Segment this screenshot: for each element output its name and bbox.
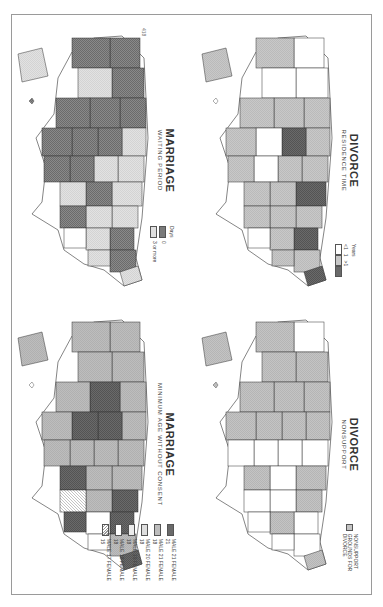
legend-heading: Years bbox=[351, 244, 357, 277]
swatch-light bbox=[151, 226, 158, 238]
legend-item: MALE 20 FEMALE 18 bbox=[139, 524, 150, 587]
swatch-dark bbox=[167, 524, 174, 536]
swatch-medium bbox=[346, 524, 353, 531]
legend-swatches bbox=[335, 244, 342, 277]
legend-label: 0 bbox=[160, 241, 166, 244]
legend-label: MALE 21 FEMALE 18 bbox=[152, 539, 163, 587]
alaska-shape bbox=[202, 332, 232, 366]
map-panel-divorce-nonsupport: DIVORCE NONSUPPORT NONSUPPORT GROUNDS FO… bbox=[196, 302, 366, 587]
legend-label: MALE 18 FEMALE 18 bbox=[113, 539, 124, 587]
legend-heading: Days bbox=[169, 226, 175, 262]
swatch-white bbox=[335, 244, 342, 255]
legend-residence-time: Years <1 1 >1 bbox=[335, 244, 356, 277]
legend-item: MALE 17 FEMALE 15 bbox=[100, 524, 111, 587]
legend-item: MALE 18 FEMALE 18 bbox=[113, 524, 124, 587]
legend-minimum-age: MALE 21 FEMALE 21 MALE 21 FEMALE 18 MALE… bbox=[98, 524, 176, 587]
hawaii-shape bbox=[29, 382, 34, 388]
legend-label: >1 bbox=[343, 260, 349, 266]
legend-label: NONSUPPORT GROUNDS FOR DIVORCE bbox=[342, 534, 359, 580]
alaska-shape bbox=[18, 332, 48, 366]
alaska-shape bbox=[202, 48, 232, 82]
swatch-dark bbox=[160, 226, 167, 238]
legend-item: MALE 19 FEMALE 18 bbox=[126, 524, 137, 587]
map-panel-marriage-minimum-age: MARRIAGE MINIMUM AGE WITHOUT CONSENT MAL… bbox=[12, 302, 182, 587]
legend-item: 0 bbox=[160, 226, 167, 262]
legend-nonsupport: NONSUPPORT GROUNDS FOR DIVORCE bbox=[340, 524, 359, 580]
legend-labels: <1 1 >1 bbox=[343, 244, 349, 277]
legend-label: <1 bbox=[343, 244, 349, 250]
legend-label: MALE 17 FEMALE 15 bbox=[100, 539, 111, 587]
legend-label: MALE 20 FEMALE 18 bbox=[139, 539, 150, 587]
swatch-dark bbox=[335, 266, 342, 277]
alaska-shape bbox=[18, 48, 48, 82]
legend-label: MALE 21 FEMALE 21 bbox=[165, 539, 176, 587]
map-panel-marriage-waiting-period: MARRIAGE WAITING PERIOD Days 0 3 or more bbox=[12, 18, 182, 303]
hawaii-shape bbox=[213, 98, 218, 104]
legend-item: MALE 21 FEMALE 21 bbox=[165, 524, 176, 587]
hawaii-shape bbox=[213, 382, 218, 388]
swatch-hatch bbox=[102, 524, 109, 536]
legend-item: 3 or more bbox=[151, 226, 158, 262]
swatch-medium bbox=[335, 255, 342, 266]
legend-item: MALE 21 FEMALE 18 bbox=[152, 524, 163, 587]
legend-item: NONSUPPORT GROUNDS FOR DIVORCE bbox=[342, 524, 359, 580]
swatch-lighter bbox=[128, 524, 135, 536]
map-panel-divorce-residence-time: DIVORCE RESIDENCE TIME Years <1 1 >1 bbox=[196, 18, 366, 303]
legend-label: 1 bbox=[343, 254, 349, 257]
swatch-light bbox=[141, 524, 148, 536]
swatch-white bbox=[115, 524, 122, 536]
legend-waiting-period: Days 0 3 or more bbox=[149, 226, 175, 262]
legend-label: 3 or more bbox=[151, 241, 157, 262]
hawaii-shape bbox=[29, 98, 34, 104]
legend-label: MALE 19 FEMALE 18 bbox=[126, 539, 137, 587]
swatch-medium bbox=[154, 524, 161, 536]
